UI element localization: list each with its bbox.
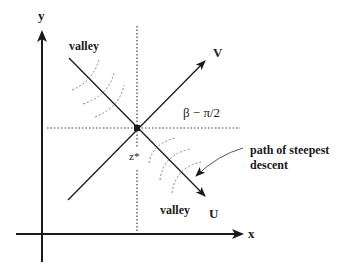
valley-top-label: valley bbox=[69, 39, 99, 53]
saddle-point bbox=[134, 125, 140, 131]
x-axis-label: x bbox=[248, 226, 255, 241]
v-label: V bbox=[213, 45, 223, 60]
saddle-point-label: z* bbox=[129, 150, 139, 162]
valley-bottom-label: valley bbox=[160, 203, 190, 217]
steepest-descent-diagram: y x V U z* β − π/2 valley valley path of… bbox=[0, 0, 347, 272]
angle-label: β − π/2 bbox=[183, 105, 220, 120]
u-label: U bbox=[209, 206, 219, 221]
annotation-line-1: path of steepest bbox=[250, 143, 329, 157]
y-axis-label: y bbox=[38, 8, 45, 23]
annotation-arrow bbox=[196, 148, 243, 176]
annotation-line-2: descent bbox=[250, 158, 288, 172]
